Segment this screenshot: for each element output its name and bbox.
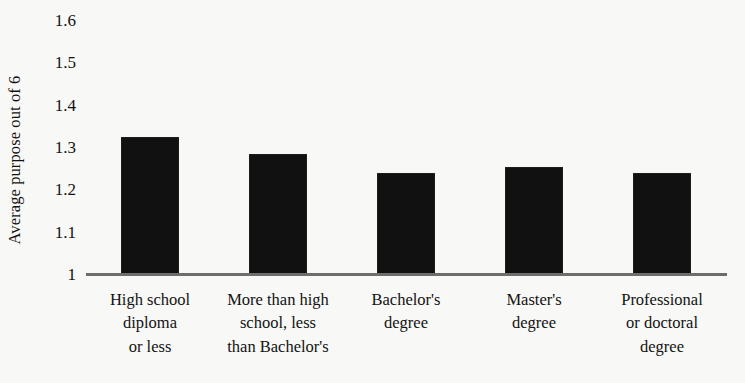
bar-chart-figure: Average purpose out of 6 1.61.51.41.31.2… bbox=[0, 0, 745, 383]
x-axis-label-line: degree bbox=[594, 335, 730, 358]
y-tick-label: 1.1 bbox=[34, 223, 76, 240]
x-axis-label-line: degree bbox=[338, 311, 474, 334]
x-axis-label: More than highschool, lessthan Bachelor'… bbox=[210, 288, 346, 358]
bar[interactable] bbox=[505, 167, 563, 274]
y-axis-tick-labels: 1.61.51.41.31.21.11 bbox=[34, 0, 76, 383]
x-axis-label-line: Bachelor's bbox=[338, 288, 474, 311]
bar[interactable] bbox=[377, 173, 435, 274]
y-tick-label: 1.4 bbox=[34, 96, 76, 113]
x-axis-line bbox=[86, 273, 727, 276]
bar-slot bbox=[470, 20, 598, 274]
y-axis-title: Average purpose out of 6 bbox=[0, 15, 30, 305]
plot-area bbox=[86, 20, 726, 274]
y-tick-label: 1.6 bbox=[34, 12, 76, 29]
x-axis-label-line: degree bbox=[466, 311, 602, 334]
bar[interactable] bbox=[633, 173, 691, 274]
bar-slot bbox=[214, 20, 342, 274]
bar[interactable] bbox=[249, 154, 307, 274]
x-axis-label-line: school, less bbox=[210, 311, 346, 334]
x-axis-label-line: than Bachelor's bbox=[210, 335, 346, 358]
x-axis-label: Professionalor doctoraldegree bbox=[594, 288, 730, 358]
y-tick-label: 1.3 bbox=[34, 139, 76, 156]
x-axis-category-labels: High schooldiplomaor lessMore than highs… bbox=[86, 288, 726, 383]
bar-slot bbox=[342, 20, 470, 274]
x-axis-label: Bachelor'sdegree bbox=[338, 288, 474, 335]
x-axis-label-line: Professional bbox=[594, 288, 730, 311]
bar[interactable] bbox=[121, 137, 179, 274]
x-axis-label-line: High school bbox=[82, 288, 218, 311]
x-axis-label-line: or less bbox=[82, 335, 218, 358]
x-axis-label-line: More than high bbox=[210, 288, 346, 311]
x-axis-label-line: diploma bbox=[82, 311, 218, 334]
x-axis-label-line: or doctoral bbox=[594, 311, 730, 334]
x-axis-label-line: Master's bbox=[466, 288, 602, 311]
x-axis-label: High schooldiplomaor less bbox=[82, 288, 218, 358]
x-axis-label: Master'sdegree bbox=[466, 288, 602, 335]
y-tick-label: 1.2 bbox=[34, 181, 76, 198]
bar-slot bbox=[86, 20, 214, 274]
y-tick-label: 1.5 bbox=[34, 54, 76, 71]
bar-slot bbox=[598, 20, 726, 274]
y-tick-label: 1 bbox=[34, 266, 76, 283]
